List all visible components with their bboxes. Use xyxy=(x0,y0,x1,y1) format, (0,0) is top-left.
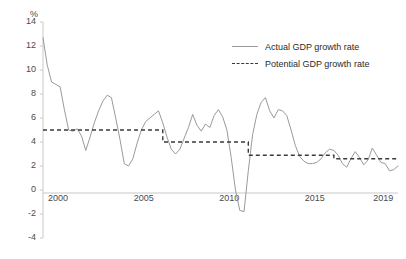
legend-dashed-line-icon xyxy=(232,59,258,68)
chart-legend: Actual GDP growth rate Potential GDP gro… xyxy=(232,38,369,72)
legend-item-potential: Potential GDP growth rate xyxy=(232,55,369,72)
legend-label-potential: Potential GDP growth rate xyxy=(265,59,369,69)
gdp-growth-chart: % 14121086420-2-4 20002005201020152019 A… xyxy=(0,0,406,259)
legend-solid-line-icon xyxy=(232,42,258,51)
potential-gdp-line xyxy=(43,130,398,159)
legend-label-actual: Actual GDP growth rate xyxy=(265,42,359,52)
legend-item-actual: Actual GDP growth rate xyxy=(232,38,369,55)
